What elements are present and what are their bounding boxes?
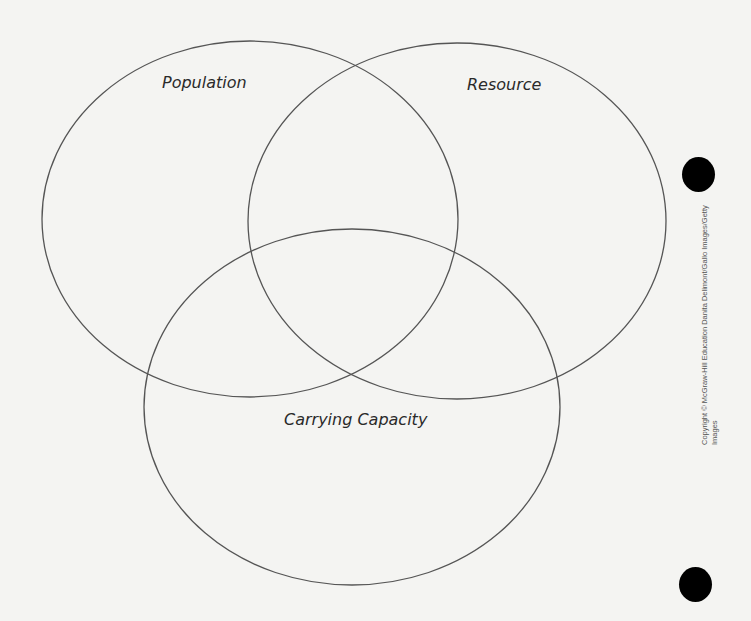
copyright-credit: Copyright © McGraw-Hill Education Danita… bbox=[700, 205, 720, 445]
binder-hole-bottom bbox=[679, 567, 712, 602]
population-circle bbox=[42, 41, 458, 397]
carrying-capacity-label: Carrying Capacity bbox=[284, 410, 427, 429]
venn-diagram bbox=[0, 0, 751, 621]
population-label: Population bbox=[162, 73, 247, 92]
credit-line-1: Copyright © McGraw-Hill Education Danita… bbox=[700, 205, 710, 445]
resource-label: Resource bbox=[467, 75, 541, 94]
resource-circle bbox=[248, 43, 666, 399]
binder-hole-top bbox=[682, 157, 715, 192]
carrying-capacity-circle bbox=[144, 229, 560, 585]
credit-line-2: Images bbox=[710, 205, 720, 445]
